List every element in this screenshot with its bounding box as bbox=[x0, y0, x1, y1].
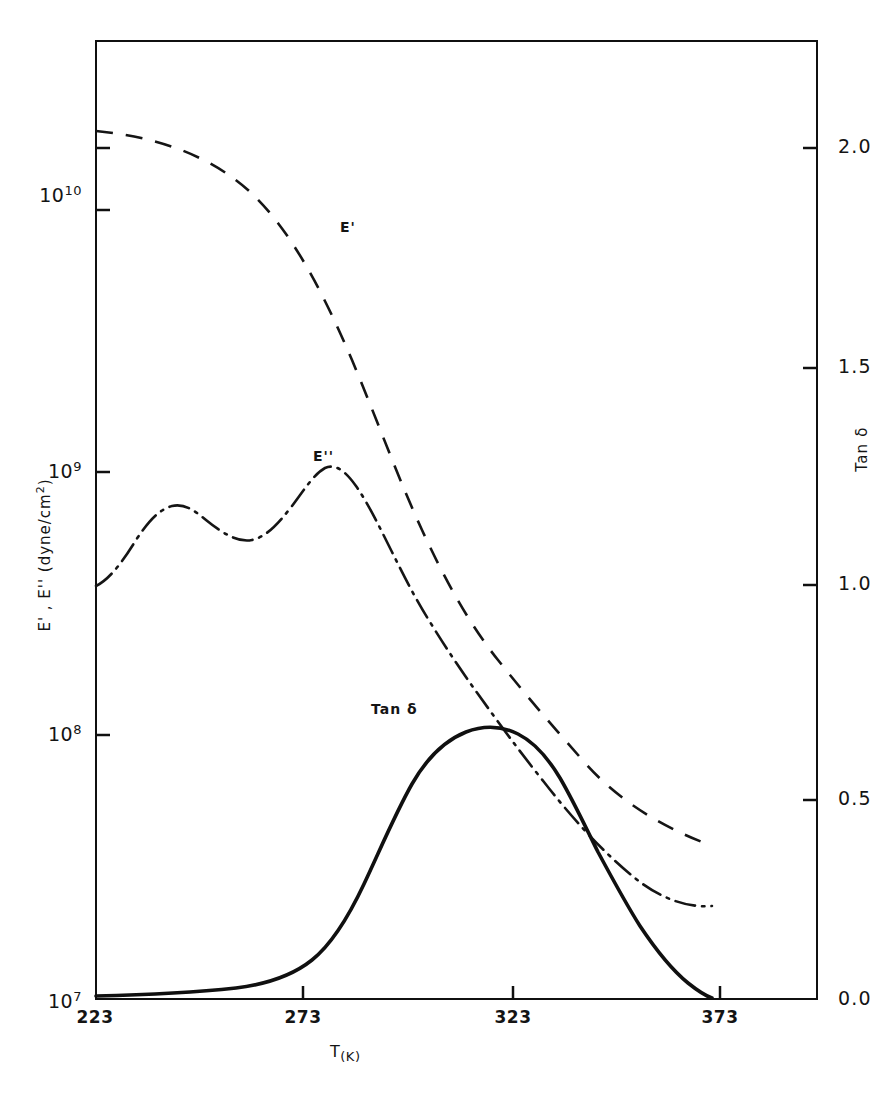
left-axis-ticks bbox=[95, 148, 110, 735]
left-tick-exponent: 7 bbox=[73, 989, 82, 1004]
x-tick-label-323: 323 bbox=[488, 1007, 538, 1027]
y-axis-title: E' , E'' (dyne/cm2) bbox=[34, 425, 54, 685]
x-axis-title: T(K) bbox=[330, 1042, 360, 1064]
right-tick-label-0-0: 0.0 bbox=[838, 987, 872, 1009]
x-tick-label-223: 223 bbox=[70, 1007, 120, 1027]
y-axis-title-text: E' , E'' (dyne/cm bbox=[36, 493, 54, 631]
x-tick-label-373: 373 bbox=[695, 1007, 745, 1027]
curve-label-e-prime: E' bbox=[340, 219, 356, 235]
bottom-axis-ticks bbox=[303, 986, 720, 1000]
curve-e-double-prime bbox=[96, 467, 712, 907]
plot-canvas bbox=[0, 0, 889, 1097]
curve-label-e-double-prime: E'' bbox=[313, 448, 334, 464]
x-axis-title-text: T bbox=[330, 1042, 340, 1061]
right-axis-ticks bbox=[803, 148, 818, 800]
y-axis-title-tail: ) bbox=[36, 478, 54, 485]
left-tick-exponent: 8 bbox=[73, 722, 82, 737]
curve-label-tan-delta: Tan δ bbox=[371, 701, 418, 717]
right-axis-title: Tan δ bbox=[853, 379, 871, 519]
left-tick-exponent: 10 bbox=[64, 183, 82, 198]
figure-page: 1010 109 108 107 2.0 1.5 1.0 0.5 0.0 223… bbox=[0, 0, 889, 1097]
y-axis-title-superscript: 2 bbox=[34, 485, 47, 493]
x-tick-label-273: 273 bbox=[278, 1007, 328, 1027]
right-tick-label-0-5: 0.5 bbox=[838, 787, 872, 809]
curve-e-prime bbox=[96, 131, 702, 842]
left-tick-label-1e10: 1010 bbox=[18, 183, 82, 206]
right-tick-label-1-0: 1.0 bbox=[838, 572, 872, 594]
left-tick-exponent: 9 bbox=[73, 459, 82, 474]
curve-tan-delta bbox=[96, 727, 712, 998]
right-tick-label-2-0: 2.0 bbox=[838, 135, 872, 157]
left-tick-base: 10 bbox=[48, 723, 73, 745]
right-tick-label-1-5: 1.5 bbox=[838, 355, 872, 377]
left-tick-base: 10 bbox=[39, 184, 64, 206]
left-tick-label-1e8: 108 bbox=[18, 722, 82, 745]
x-axis-title-unit: (K) bbox=[340, 1049, 360, 1064]
